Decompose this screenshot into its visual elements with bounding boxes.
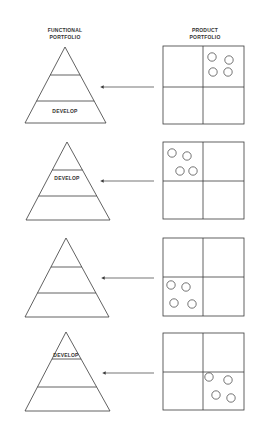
functional-pyramid: DEVELOP bbox=[25, 47, 106, 123]
matrix-outline bbox=[163, 333, 244, 410]
product-circle-icon bbox=[212, 391, 220, 399]
pyramid-outline bbox=[25, 238, 109, 317]
product-matrix bbox=[163, 142, 244, 219]
functional-pyramid bbox=[25, 238, 109, 317]
functional-pyramid: DEVELOP bbox=[26, 142, 110, 220]
product-circle-icon bbox=[208, 53, 216, 61]
panel-1: DEVELOP bbox=[25, 46, 244, 124]
product-circle-icon bbox=[224, 376, 232, 384]
product-circle-icon bbox=[225, 56, 233, 64]
product-circle-icon bbox=[205, 373, 213, 381]
develop-label: DEVELOP bbox=[54, 175, 80, 181]
develop-label: DEVELOP bbox=[53, 352, 79, 358]
panel-2: DEVELOP bbox=[26, 142, 244, 220]
product-circle-icon bbox=[189, 167, 197, 175]
product-matrix bbox=[163, 238, 244, 316]
product-circle-icon bbox=[227, 394, 235, 402]
develop-label: DEVELOP bbox=[52, 108, 78, 114]
portfolio-diagram: DEVELOPDEVELOPDEVELOP bbox=[0, 0, 261, 432]
product-circle-icon bbox=[183, 152, 191, 160]
panel-4: DEVELOP bbox=[25, 332, 244, 411]
product-matrix bbox=[163, 333, 244, 410]
matrix-outline bbox=[163, 142, 244, 219]
product-circle-icon bbox=[182, 283, 190, 291]
product-circle-icon bbox=[176, 167, 184, 175]
functional-pyramid: DEVELOP bbox=[25, 332, 110, 411]
product-circle-icon bbox=[167, 281, 175, 289]
product-circle-icon bbox=[188, 300, 196, 308]
product-circle-icon bbox=[170, 299, 178, 307]
product-circle-icon bbox=[209, 68, 217, 76]
product-circle-icon bbox=[224, 68, 232, 76]
product-matrix bbox=[163, 46, 244, 124]
matrix-outline bbox=[163, 46, 244, 124]
pyramid-outline bbox=[25, 332, 110, 411]
panel-3 bbox=[25, 238, 244, 317]
product-circle-icon bbox=[168, 149, 176, 157]
pyramid-outline bbox=[26, 142, 110, 220]
